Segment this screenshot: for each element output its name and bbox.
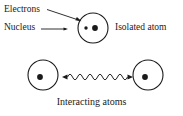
electrons-pointer-arrow [47,10,82,22]
label-isolated-atom: Isolated atom [115,23,166,33]
label-interacting-atoms: Interacting atoms [0,97,183,107]
right-atom-circle [133,60,163,90]
nucleus-dot [92,25,98,31]
left-atom-nucleus-dot [37,74,43,80]
label-nucleus: Nucleus [4,23,35,33]
atom-interaction-figure: Electrons Nucleus Isolated atom Interact… [0,0,183,116]
left-atom-group [28,60,58,90]
nucleus-pointer-arrow [41,27,68,30]
electron-dot [84,26,87,29]
right-atom-nucleus-dot [142,74,148,80]
isolated-atom-group [78,13,108,43]
interaction-wave-arrow [62,74,133,80]
right-atom-group [133,60,163,90]
label-electrons: Electrons [4,5,40,15]
left-atom-circle [28,60,58,90]
